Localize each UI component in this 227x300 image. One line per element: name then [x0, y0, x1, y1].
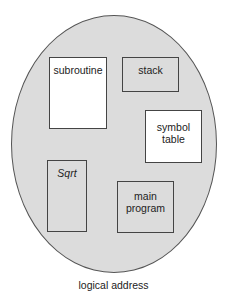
segment-label: subroutine	[50, 58, 106, 76]
segment-label-line-1: main	[118, 182, 173, 202]
segment-label-line-2: program	[118, 202, 173, 214]
segment-label: Sqrt	[48, 161, 86, 179]
segment-label-line-1: symbol	[146, 111, 201, 133]
segment-label-line-2: table	[146, 133, 201, 145]
diagram-caption: logical address	[0, 279, 227, 291]
segment-symbol-table: symbol table	[145, 110, 202, 163]
segment-label: stack	[123, 58, 178, 76]
segment-sqrt: Sqrt	[47, 160, 87, 232]
segment-stack: stack	[122, 57, 179, 92]
segment-subroutine: subroutine	[49, 57, 107, 129]
segment-main-program: main program	[117, 181, 174, 233]
